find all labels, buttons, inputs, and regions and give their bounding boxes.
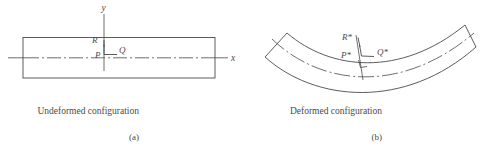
- x-axis-label: x: [230, 53, 236, 63]
- subcaption-b: (b): [372, 132, 383, 142]
- beam-deformation-figure: y x R P Q Undeformed configuration (a): [0, 0, 492, 152]
- caption-undeformed: Undeformed configuration: [37, 106, 139, 116]
- caption-deformed: Deformed configuration: [290, 106, 382, 116]
- subcaption-a: (a): [129, 132, 139, 142]
- y-axis-label: y: [101, 3, 107, 13]
- point-P-star-label: P*: [340, 50, 351, 60]
- PQ-star-right-angle-bracket: [360, 45, 375, 57]
- point-P-label: P: [94, 50, 101, 60]
- point-Q-label: Q: [119, 45, 126, 55]
- deformed-bottom-surface: [265, 47, 476, 93]
- point-Q-star-label: Q*: [377, 47, 388, 57]
- PQ-right-angle-bracket: [104, 45, 117, 55]
- deformed-cross-section-line: [356, 35, 363, 80]
- deformed-left-end-face: [265, 33, 287, 57]
- point-R-star-label: R*: [341, 32, 352, 42]
- point-R-label: R: [91, 35, 98, 45]
- figure-canvas: y x R P Q Undeformed configuration (a): [0, 0, 492, 152]
- panel-deformed: R* P* Q* Deformed configuration (b): [265, 25, 476, 142]
- panel-undeformed: y x R P Q Undeformed configuration (a): [8, 3, 236, 142]
